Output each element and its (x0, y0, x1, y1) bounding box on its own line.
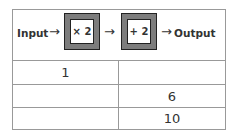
table-row: 1 (13, 61, 225, 85)
arrow-icon: → (49, 24, 60, 39)
output-label: Output (174, 27, 215, 39)
input-cell (13, 85, 119, 107)
input-cell (13, 108, 119, 129)
operation-box-add: + 2 (121, 13, 157, 50)
function-machine-header: Input → × 2 → + 2 → Output (13, 10, 225, 61)
arrow-icon: → (161, 24, 172, 39)
operation-label: × 2 (70, 19, 94, 44)
function-machine-table: Input → × 2 → + 2 → Output 1 6 10 (12, 9, 226, 130)
table-row: 6 (13, 85, 225, 108)
operation-box-multiply: × 2 (64, 13, 100, 50)
operation-label: + 2 (127, 19, 151, 44)
output-cell: 10 (119, 108, 225, 129)
output-cell (119, 61, 225, 84)
table-row: 10 (13, 108, 225, 129)
arrow-icon: → (104, 24, 115, 39)
input-cell: 1 (13, 61, 119, 84)
input-label: Input (17, 27, 48, 39)
output-cell: 6 (119, 85, 225, 107)
